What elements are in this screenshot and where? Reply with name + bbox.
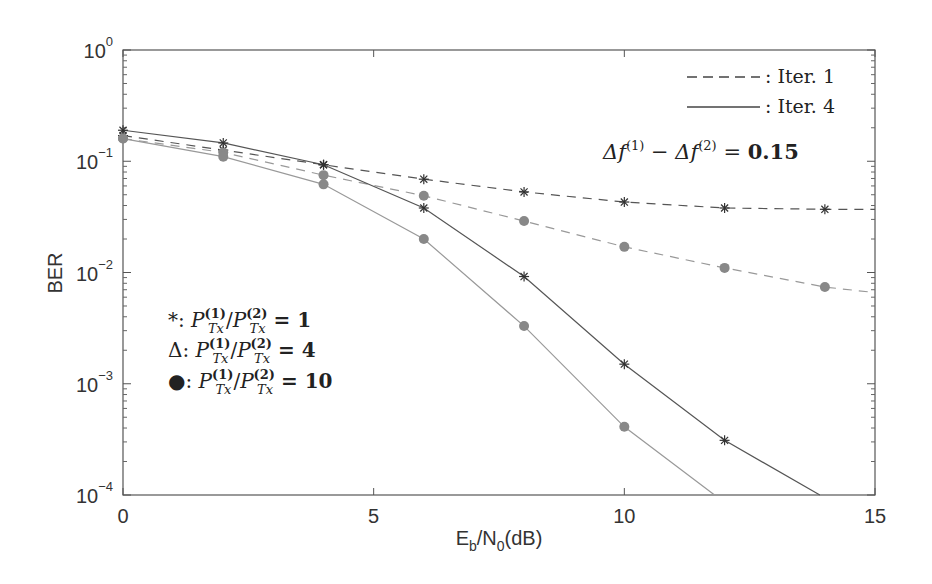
delta-f-annotation: Δf(1) − Δf(2) = 0.15	[602, 138, 799, 164]
star-marker	[720, 203, 730, 213]
y-tick-label: 10−3	[76, 368, 113, 396]
dot-marker	[619, 242, 629, 252]
y-tick-label: 10−2	[76, 257, 113, 285]
star-marker	[619, 197, 629, 207]
marker-legend-item: ●: P(1)Tx/P(2)Tx= 10	[168, 367, 333, 397]
star-marker	[619, 359, 629, 369]
star-marker	[319, 160, 329, 170]
x-tick-label: 15	[864, 505, 886, 527]
y-axis-label: BER	[44, 252, 66, 293]
star-marker	[419, 203, 429, 213]
y-tick-label: 10−4	[76, 479, 113, 507]
svg-text:: Iter. 4: : Iter. 4	[765, 95, 835, 117]
y-tick-label: 10−1	[76, 145, 113, 173]
dot-marker	[519, 321, 529, 331]
star-marker	[519, 272, 529, 282]
dot-marker	[118, 134, 128, 144]
y-tick-label: 100	[84, 34, 113, 62]
marker-legend-item: *: P(1)Tx/P(2)Tx= 1	[168, 306, 311, 336]
dot-marker	[820, 282, 830, 292]
x-tick-label: 0	[117, 505, 128, 527]
svg-text:Δf(1) − Δf(2) = 0.15: Δf(1) − Δf(2) = 0.15	[602, 138, 799, 164]
star-marker	[720, 435, 730, 445]
dot-marker	[619, 422, 629, 432]
ber-chart: 05101510010−110−210−310−4 BER Eb/N0(dB) …	[0, 0, 932, 584]
dot-marker	[218, 152, 228, 162]
x-tick-label: 10	[613, 505, 635, 527]
x-axis-label: Eb/N0(dB)	[456, 527, 543, 554]
dot-marker	[720, 263, 730, 273]
dot-marker	[419, 234, 429, 244]
star-marker	[419, 174, 429, 184]
star-marker	[519, 187, 529, 197]
dot-marker	[519, 216, 529, 226]
dot-marker	[319, 179, 329, 189]
marker-legend-item: Δ: P(1)Tx/P(2)Tx= 4	[168, 336, 316, 366]
dot-marker	[319, 170, 329, 180]
star-marker	[820, 204, 830, 214]
svg-text:: Iter. 1: : Iter. 1	[765, 65, 835, 87]
line-style-legend: : Iter. 1 : Iter. 4	[687, 65, 835, 117]
marker-legend: *: P(1)Tx/P(2)Tx= 1Δ: P(1)Tx/P(2)Tx= 4●:…	[168, 306, 333, 397]
star-marker	[218, 138, 228, 148]
dot-marker	[419, 191, 429, 201]
x-tick-label: 5	[368, 505, 379, 527]
